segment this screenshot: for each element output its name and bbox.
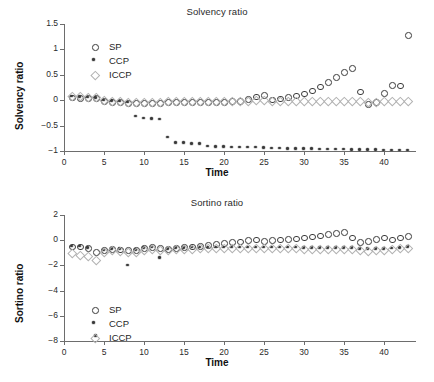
sortino-ratio-panel: Sortino ratio Sortino ratio Time 0510152… [0,191,434,382]
y-axis-tick-label: −4 [22,285,58,295]
data-point-sp [365,238,372,245]
x-axis-tick [224,151,225,155]
x-axis-tick-label: 25 [250,347,278,357]
data-point-ccp [334,148,337,151]
data-point-sp [293,93,300,100]
data-point-ccp [310,147,313,150]
data-point-iccp [340,244,349,253]
data-point-sp [149,100,156,107]
data-point-sp [133,247,140,254]
data-point-ccp [182,141,185,144]
data-point-ccp [78,245,81,248]
data-point-iccp [212,244,221,253]
data-point-ccp [318,246,321,249]
x-axis-tick [64,151,65,155]
data-point-iccp [388,97,397,106]
data-point-sp [85,95,92,102]
data-point-sp [309,234,316,241]
data-point-sp [325,79,332,86]
data-point-iccp [372,98,381,107]
data-point-ccp [262,246,265,249]
data-point-ccp [310,246,313,249]
data-point-sp [333,230,340,237]
y-axis-tick [60,265,64,266]
solvency-ratio-panel: Solvency ratio Solvency ratio Time 05101… [0,0,434,191]
x-axis-tick [384,341,385,345]
data-point-ccp [142,246,145,249]
data-point-sp [293,236,300,243]
data-point-ccp [318,148,321,151]
data-point-sp [341,69,348,76]
x-axis-tick-label: 10 [130,347,158,357]
y-axis-line [64,215,65,342]
x-axis-tick-label: 15 [170,347,198,357]
data-point-iccp [340,97,349,106]
data-point-sp [109,246,116,253]
x-axis-tick-label: 15 [170,157,198,167]
data-point-ccp [342,148,345,151]
data-point-sp [309,88,316,95]
data-point-sp [205,99,212,106]
data-point-sp [397,83,404,90]
sortino-chart-title: Sortino ratio [0,197,434,208]
data-point-ccp [206,246,209,249]
data-point-iccp [76,92,85,101]
data-point-ccp [142,117,145,120]
data-point-sp [373,236,380,243]
data-point-ccp [294,147,297,150]
data-point-sp [381,235,388,242]
data-point-sp [213,241,220,248]
data-point-ccp [326,148,329,151]
data-point-iccp [316,97,325,106]
data-point-iccp [380,246,389,255]
data-point-ccp [158,256,161,259]
data-point-iccp [244,97,253,106]
data-point-iccp [84,92,93,101]
data-point-iccp [236,97,245,106]
data-point-sp [173,245,180,252]
data-point-sp [77,95,84,102]
data-point-ccp [110,247,113,250]
data-point-iccp [388,245,397,254]
x-axis-tick-label: 10 [130,157,158,167]
data-point-sp [197,99,204,106]
x-axis-tick [104,341,105,345]
data-point-ccp [126,264,129,267]
data-point-iccp [364,247,373,256]
data-point-sp [269,237,276,244]
data-point-sp [213,99,220,106]
data-point-iccp [156,246,165,255]
y-axis-tick [60,341,64,342]
data-point-ccp [246,146,249,149]
data-point-sp [181,99,188,106]
data-point-sp [117,247,124,254]
data-point-ccp [286,147,289,150]
y-axis-tick [60,126,64,127]
legend-label: ICCP [109,331,132,345]
data-point-ccp [190,142,193,145]
data-point-iccp [380,97,389,106]
data-point-iccp [140,246,149,255]
data-point-ccp [70,245,73,248]
data-point-ccp [342,246,345,249]
data-point-iccp [292,97,301,106]
data-point-iccp [164,246,173,255]
data-point-sp [253,94,260,101]
data-point-sp [253,237,260,244]
data-point-iccp [308,97,317,106]
x-axis-tick [224,341,225,345]
data-point-iccp [332,97,341,106]
x-axis-tick [144,341,145,345]
data-point-sp [333,74,340,81]
data-point-ccp [286,246,289,249]
data-point-iccp [188,97,197,106]
y-axis-tick-label: −6 [22,310,58,320]
data-point-sp [101,98,108,105]
data-point-iccp [188,244,197,253]
x-axis-tick [264,151,265,155]
data-point-ccp [158,118,161,121]
data-point-iccp [196,97,205,106]
data-point-sp [149,244,156,251]
data-point-sp [269,97,276,104]
data-point-iccp [252,244,261,253]
